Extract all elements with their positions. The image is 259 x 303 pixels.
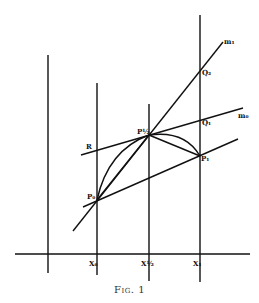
label-r: R bbox=[86, 142, 92, 151]
label-q2: Q₂ bbox=[202, 68, 211, 77]
chord-p0-phalf bbox=[97, 135, 149, 200]
label-x1: X₁ bbox=[193, 259, 202, 268]
label-m1: m₁ bbox=[224, 37, 234, 46]
label-p1: P₁ bbox=[201, 154, 209, 163]
label-m0: m₀ bbox=[238, 111, 248, 120]
label-x0: X₀ bbox=[89, 259, 98, 268]
figure-caption: Fig. 1 bbox=[0, 284, 259, 295]
figure-diagram: m₁ Q₂ m₀ Q₁ P½ R P₁ P₀ X₀ X½ X₁ bbox=[0, 0, 259, 303]
label-p0: P₀ bbox=[87, 192, 95, 201]
label-xhalf: X½ bbox=[141, 259, 154, 268]
label-q1: Q₁ bbox=[202, 118, 211, 127]
label-phalf: P½ bbox=[137, 127, 150, 136]
